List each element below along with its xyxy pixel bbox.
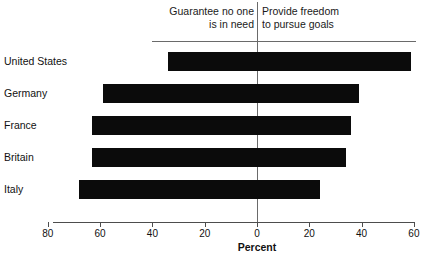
axis-tick-label: 40 [147,228,158,239]
axis-tick [257,222,258,227]
x-axis-title: Percent [238,241,277,253]
country-label: Germany [4,87,47,99]
axis-tick-label: 0 [254,228,260,239]
chart-legend-header: Guarantee no one is in need Provide free… [0,0,424,40]
axis-tick [48,222,49,227]
axis-tick [152,222,153,227]
axis-tick-label: 20 [199,228,210,239]
legend-label-freedom: Provide freedom to pursue goals [262,5,402,30]
axis-tick-label: 60 [95,228,106,239]
axis-tick [309,222,310,227]
header-divider-rule [152,41,416,42]
axis-tick-label: 40 [356,228,367,239]
diverging-bar [79,180,320,199]
table-row: United States [0,46,424,78]
table-row: Germany [0,78,424,110]
country-label: United States [4,55,67,67]
axis-tick [100,222,101,227]
table-row: Britain [0,142,424,174]
diverging-bar [92,116,351,135]
diverging-bar [103,84,359,103]
axis-tick-label: 20 [304,228,315,239]
axis-tick [362,222,363,227]
legend-label-guarantee: Guarantee no one is in need [114,5,254,30]
plot-area: United StatesGermanyFranceBritainItaly [0,46,424,222]
axis-tick [205,222,206,227]
country-label: Italy [4,183,23,195]
table-row: France [0,110,424,142]
diverging-bar-chart: Guarantee no one is in need Provide free… [0,0,424,254]
x-axis: 806040200204060 Percent [0,222,424,254]
country-label: Britain [4,151,34,163]
diverging-bar [92,148,346,167]
diverging-bar [168,52,411,71]
axis-tick-label: 60 [408,228,419,239]
table-row: Italy [0,174,424,206]
axis-tick-label: 80 [42,228,53,239]
country-label: France [4,119,37,131]
axis-tick [414,222,415,227]
